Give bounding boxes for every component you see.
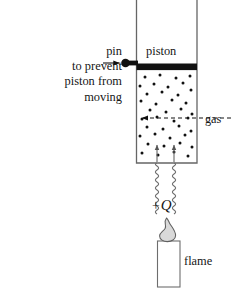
annotation-line-2: piston from — [0, 74, 122, 89]
pin-annotation-block: pin to prevent piston from moving — [0, 44, 122, 105]
flame-label: flame — [184, 254, 212, 269]
annotation-line-3: moving — [0, 90, 122, 105]
heat-sign: + — [152, 198, 160, 213]
pin-label: pin — [0, 44, 122, 59]
heat-transfer-label: +Q — [152, 197, 172, 215]
gas-label: gas — [205, 112, 221, 126]
piston-label: piston — [146, 44, 176, 59]
annotation-line-1: to prevent — [0, 59, 122, 74]
diagram-canvas: pin to prevent piston from moving piston… — [0, 0, 247, 304]
flame-shape — [160, 218, 176, 242]
heat-symbol: Q — [160, 197, 172, 213]
piston-bar — [137, 64, 198, 71]
cylinder — [137, 0, 198, 163]
candle-body — [158, 241, 181, 287]
pin — [121, 59, 138, 68]
heat-wave-right — [172, 163, 175, 214]
